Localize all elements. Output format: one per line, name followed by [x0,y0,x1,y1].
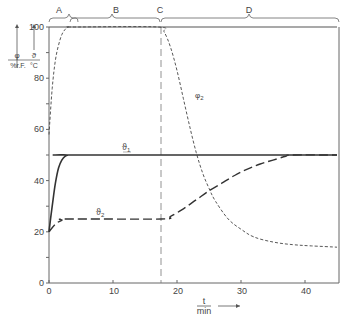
series-ϑ1 [49,155,337,232]
xtick-label: 0 [46,286,51,296]
x-axis-labels: 0 10 20 30 40 [46,286,311,296]
y-axis-title-phi: φ %r.F. [8,24,28,69]
x-axis-title: t min [197,296,240,316]
series-ϑ2 [49,155,337,232]
ytick-label: 60 [34,124,44,134]
xtick-label: 30 [237,286,247,296]
ytick-label: 100 [29,22,44,32]
svg-text:ϑ: ϑ [32,51,37,60]
label-theta2: ϑ2 [96,207,105,218]
phase-label-c: C [157,5,164,15]
ytick-label: 20 [34,227,44,237]
series-φ2 [49,27,337,248]
svg-text:t: t [203,296,206,306]
ytick-label: 80 [34,73,44,83]
phase-label-a: A [56,5,62,15]
xtick-label: 20 [173,286,183,296]
ytick-label: 0 [39,278,44,288]
phase-label-b: B [113,5,119,15]
svg-text:φ: φ [14,51,19,60]
label-phi2: φ2 [195,91,204,101]
svg-text:%r.F.: %r.F. [10,62,26,69]
xtick-label: 40 [301,286,311,296]
chart: 0 20 40 60 80 100 0 10 20 30 40 t min φ … [0,0,346,317]
phase-braces [49,14,339,22]
ytick-label: 40 [34,176,44,186]
svg-text:°C: °C [30,62,38,69]
phase-label-d: D [246,5,253,15]
label-theta1: ϑ1 [122,142,131,153]
xtick-label: 10 [109,286,119,296]
series-layer [49,27,337,248]
phase-labels: A B C D [56,5,253,15]
svg-text:min: min [197,306,212,316]
